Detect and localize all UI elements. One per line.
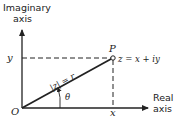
complex-plane-diagram: Imaginary axis Real axis O y x P z = x +… — [0, 0, 177, 117]
origin-label: O — [11, 106, 19, 117]
angle-theta-label: θ — [65, 92, 70, 102]
imaginary-axis-label-2: axis — [13, 13, 32, 24]
point-p-label: P — [108, 43, 116, 54]
point-equation-label: z = x + iy — [117, 54, 160, 64]
y-tick-label: y — [6, 52, 13, 63]
x-tick-label: x — [110, 107, 116, 117]
real-axis-label-2: axis — [153, 103, 172, 114]
modulus-label: |z| = r — [48, 71, 78, 94]
real-axis-label: Real — [153, 92, 173, 103]
imaginary-axis-label: Imaginary — [3, 2, 51, 13]
angle-arc-arrow — [58, 88, 60, 108]
point-p-marker — [111, 56, 115, 60]
